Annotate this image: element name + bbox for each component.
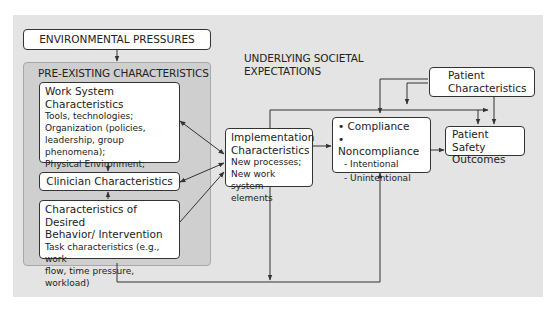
work-system-line: Physical Environment;	[45, 158, 174, 170]
societal-expectations-line2: EXPECTATIONS	[244, 65, 321, 77]
implementation-title: Implementation	[231, 131, 307, 144]
work-system-characteristics-box: Work System Characteristics Tools, techn…	[39, 82, 180, 163]
desired-behavior-line: Task characteristics (e.g., work	[45, 241, 174, 265]
work-system-line: Organization (policies,	[45, 122, 174, 134]
noncompliance-item: • Noncompliance	[338, 133, 425, 158]
patient-characteristics-title: Characteristics	[448, 82, 516, 95]
work-system-title: Work System Characteristics	[45, 85, 174, 110]
compliance-item: • Compliance	[338, 120, 425, 133]
implementation-title: Characteristics	[231, 144, 307, 157]
environmental-pressures-label: ENVIRONMENTAL PRESSURES	[24, 33, 210, 46]
environmental-pressures-box: ENVIRONMENTAL PRESSURES	[23, 29, 211, 50]
clinician-characteristics-box: Clinician Characteristics	[39, 172, 180, 191]
implementation-line: New processes;	[231, 156, 307, 168]
compliance-box: • Compliance • Noncompliance - Intention…	[332, 117, 431, 173]
implementation-characteristics-box: Implementation Characteristics New proce…	[225, 128, 313, 187]
desired-behavior-box: Characteristics of Desired Behavior/ Int…	[39, 200, 180, 259]
patient-safety-outcomes-box: Patient Safety Outcomes	[445, 126, 525, 156]
societal-expectations-line1: UNDERLYING SOCIETAL	[244, 52, 364, 64]
desired-behavior-title: Behavior/ Intervention	[45, 228, 174, 241]
implementation-line: New work system	[231, 168, 307, 192]
work-system-line: Tools, technologies;	[45, 110, 174, 122]
patient-characteristics-title: Patient	[448, 69, 516, 82]
patient-characteristics-box: Patient Characteristics	[429, 67, 535, 97]
clinician-title: Clinician Characteristics	[40, 175, 179, 188]
implementation-line: elements	[231, 192, 307, 204]
patient-safety-title: Outcomes	[452, 153, 518, 166]
unintentional-item: - Unintentional	[338, 172, 425, 184]
work-system-line: leadership, group phenomena);	[45, 134, 174, 158]
desired-behavior-line: flow, time pressure, workload)	[45, 265, 174, 289]
patient-safety-title: Patient Safety	[452, 128, 518, 153]
intentional-item: - Intentional	[338, 158, 425, 170]
desired-behavior-title: Characteristics of Desired	[45, 203, 174, 228]
pre-existing-title: PRE-EXISTING CHARACTERISTICS	[38, 67, 209, 79]
